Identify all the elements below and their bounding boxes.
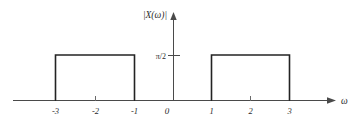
x-tick-label-pos1: 1 [209,106,213,116]
x-tick-label-neg2: -2 [92,106,100,116]
x-tick-label-pos3: 3 [286,106,291,116]
pulse-positive-band [212,55,290,101]
x-tick-label-pos2: 2 [248,106,253,116]
magnitude-spectrum-figure: |X(ω)| ω π/2 0 -3 -2 -1 1 2 3 [0,0,364,130]
x-tick-label-neg3: -3 [52,106,59,116]
origin-label: 0 [165,106,170,116]
y-tick-label-pi-over-2: π/2 [156,52,166,61]
x-tick-label-neg1: -1 [131,106,138,116]
y-axis-arrow-icon [170,12,176,20]
y-axis-title: |X(ω)| [143,10,167,21]
x-axis-arrow-icon [327,97,336,103]
pulse-negative-band [56,55,135,101]
x-axis-title: ω [341,96,348,106]
plot-canvas: |X(ω)| ω π/2 0 -3 -2 -1 1 2 3 [0,0,364,130]
